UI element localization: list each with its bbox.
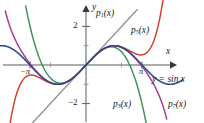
y-tick-label-neg2: −2 xyxy=(68,98,78,107)
curve-label-p7: p7(x) xyxy=(168,100,186,110)
curve-label-p1: p1(x) xyxy=(96,9,114,19)
x-tick-label-pi: π xyxy=(139,67,143,76)
curve-label-p7-tail: (x) xyxy=(176,99,187,109)
x-axis-arrowhead xyxy=(170,61,177,68)
taylor-polynomial-figure: y x 2 −2 −π π p1(x) p5(x) y = sin x p3(x… xyxy=(0,0,204,123)
curve-label-sin: y = sin x xyxy=(152,75,185,85)
curve-label-p1-tail: (x) xyxy=(104,8,115,18)
x-axis-label: x xyxy=(166,47,170,57)
curve-label-p3: p3(x) xyxy=(113,100,131,110)
y-axis-arrowhead xyxy=(82,5,89,12)
curve-label-p3-tail: (x) xyxy=(121,99,132,109)
curves-group xyxy=(0,0,182,123)
curve-label-p5-tail: (x) xyxy=(139,25,150,35)
x-tick-label-neg-pi: −π xyxy=(20,67,30,76)
curve-label-p5: p5(x) xyxy=(131,26,149,36)
y-tick-label-2: 2 xyxy=(73,21,78,30)
